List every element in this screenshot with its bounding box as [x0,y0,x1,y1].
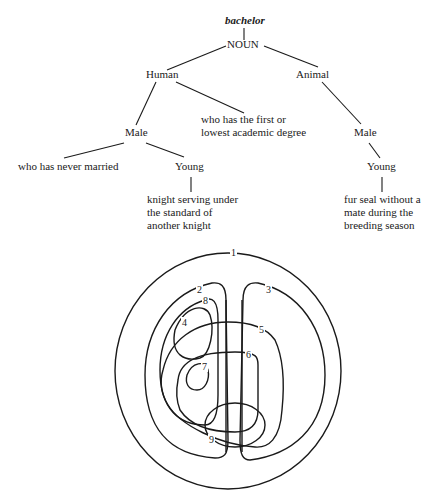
label-5: 5 [258,324,265,335]
region-1 [115,253,341,489]
label-3: 3 [265,284,272,295]
label-9: 9 [208,434,215,445]
nested-regions-diagram [0,0,433,497]
label-6: 6 [245,349,252,360]
label-4: 4 [181,317,188,328]
label-1: 1 [230,247,237,258]
label-2: 2 [196,284,203,295]
label-7: 7 [201,361,208,372]
label-8: 8 [202,295,209,306]
